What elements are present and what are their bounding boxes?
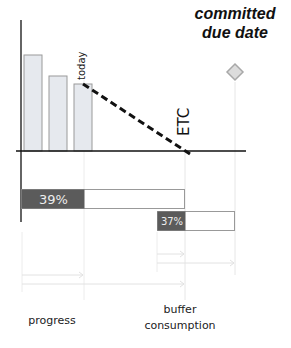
buffer-percent: 37% (158, 212, 186, 231)
today-label: today (76, 52, 87, 80)
buffer-label-line1: buffer (130, 302, 230, 318)
due-date-label-line1: committed (180, 4, 290, 23)
due-date-label-line2: due date (180, 23, 290, 42)
bar-3 (74, 84, 92, 151)
etc-label: ETC (175, 108, 193, 136)
bar-1 (24, 55, 42, 151)
diagram-canvas (0, 0, 291, 348)
span-arrows (22, 251, 234, 287)
buffer-consumption-label: buffer consumption (130, 302, 230, 334)
projection-dashed-line (83, 84, 190, 154)
buffer-label-line2: consumption (130, 318, 230, 334)
progress-percent: 39% (22, 190, 85, 209)
progress-label: progress (22, 313, 82, 329)
due-date-diamond-icon (227, 64, 243, 80)
committed-due-date-label: committed due date (180, 4, 290, 42)
bar-2 (49, 76, 67, 151)
